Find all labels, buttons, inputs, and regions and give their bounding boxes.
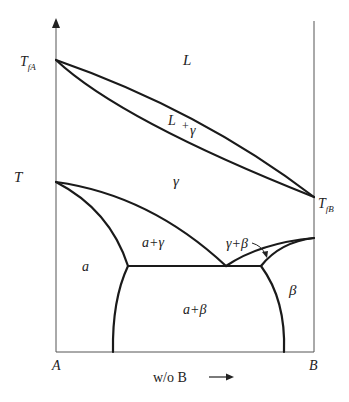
phase-diagram: TfA TfB T L L + γ γ a+γ a γ+β a+β β A B … bbox=[0, 0, 349, 402]
melting-point-a-label: TfA bbox=[20, 54, 36, 72]
alpha-solvus bbox=[113, 266, 128, 352]
temperature-axis-label: T bbox=[14, 169, 24, 185]
region-gamma-beta: γ+β bbox=[226, 236, 248, 251]
region-liquid-gamma-plus: + bbox=[182, 119, 189, 133]
component-a-label: A bbox=[51, 358, 61, 373]
region-gamma: γ bbox=[173, 173, 180, 189]
melting-point-b-label: TfB bbox=[318, 196, 334, 214]
component-b-label: B bbox=[309, 358, 318, 373]
region-alpha-beta: a+β bbox=[183, 302, 206, 317]
region-alpha-gamma: a+γ bbox=[142, 235, 164, 250]
alpha-gamma-boundary bbox=[56, 182, 128, 266]
beta-solvus bbox=[261, 266, 284, 352]
region-beta: β bbox=[288, 282, 297, 298]
pointer-arrowhead-icon bbox=[262, 251, 268, 258]
y-axis-arrow-icon bbox=[52, 18, 60, 28]
region-alpha: a bbox=[82, 259, 89, 274]
gamma-upper-boundary bbox=[56, 182, 226, 266]
region-liquid-gamma: L bbox=[167, 113, 176, 128]
x-axis-label: w/o B bbox=[153, 370, 187, 385]
region-liquid: L bbox=[182, 52, 191, 68]
region-liquid-gamma-symbol: γ bbox=[190, 123, 196, 138]
x-axis-arrow-icon bbox=[226, 374, 234, 381]
